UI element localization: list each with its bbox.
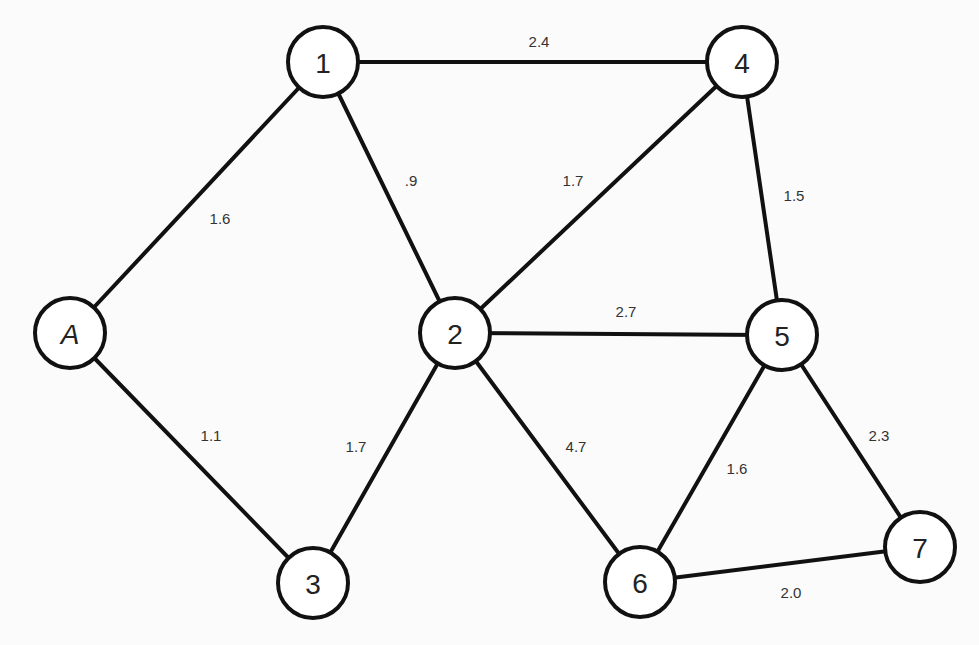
edge-2-6 (455, 333, 640, 582)
edge-weight-label: 1.5 (784, 187, 805, 204)
edge-weight-label: 4.7 (566, 438, 587, 455)
edge-weight-label: 1.7 (346, 438, 367, 455)
node-A: A (35, 298, 105, 368)
edge-5-6 (640, 335, 782, 582)
node-2: 2 (420, 298, 490, 368)
node-label: 4 (734, 48, 750, 79)
node-label: A (59, 319, 80, 350)
node-5: 5 (747, 300, 817, 370)
edge-weight-label: .9 (405, 172, 418, 189)
node-1: 1 (288, 27, 358, 97)
edge-weight-label: 2.3 (869, 427, 890, 444)
edge-weight-label: 1.1 (201, 427, 222, 444)
node-label: 1 (315, 48, 331, 79)
edge-2-5 (455, 333, 782, 335)
edge-weight-label: 1.6 (210, 210, 231, 227)
edge-2-4 (455, 62, 742, 333)
node-7: 7 (885, 512, 955, 582)
node-label: 5 (774, 321, 790, 352)
edge-6-7 (640, 547, 920, 582)
edge-weight-label: 1.6 (727, 460, 748, 477)
nodes-layer: 14A25367 (35, 27, 955, 618)
edge-A-3 (70, 333, 313, 583)
node-label: 3 (305, 569, 321, 600)
edge-weight-label: 1.7 (563, 172, 584, 189)
node-label: 6 (632, 568, 648, 599)
edge-1-2 (323, 62, 455, 333)
node-label: 2 (447, 319, 463, 350)
node-3: 3 (278, 548, 348, 618)
edge-5-7 (782, 335, 920, 547)
edge-weight-label: 2.7 (616, 303, 637, 320)
node-label: 7 (912, 533, 928, 564)
graph-diagram: 2.41.6.91.71.52.71.11.74.71.62.32.0 14A2… (0, 0, 979, 645)
edge-2-3 (313, 333, 455, 583)
edge-A-1 (70, 62, 323, 333)
edge-weight-label: 2.4 (529, 33, 550, 50)
edge-4-5 (742, 62, 782, 335)
node-6: 6 (605, 547, 675, 617)
node-4: 4 (707, 27, 777, 97)
edge-weight-label: 2.0 (781, 584, 802, 601)
